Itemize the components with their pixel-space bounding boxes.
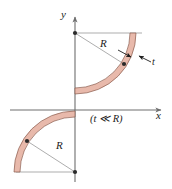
marker-center-top (73, 31, 77, 35)
marker-arc-bottom (25, 139, 29, 143)
thickness-arrow-outer (139, 56, 151, 62)
diagram-canvas (0, 0, 172, 189)
strip-lower-arc (14, 111, 75, 172)
x-axis-label: x (156, 110, 161, 121)
coordinate-axes (10, 17, 161, 182)
dimension-lines (16, 33, 142, 172)
radius-label-bottom: R (56, 140, 63, 151)
y-axis-label: y (61, 9, 66, 20)
marker-center-bottom (73, 170, 77, 174)
figure-container: y x R R t (t ≪ R) (0, 0, 172, 189)
condition-label: (t ≪ R) (90, 114, 123, 125)
radius-label-top: R (100, 38, 107, 49)
thickness-label: t (152, 57, 155, 67)
marker-arc-top (122, 62, 126, 66)
dimension-line-radius-bottom (27, 141, 75, 172)
